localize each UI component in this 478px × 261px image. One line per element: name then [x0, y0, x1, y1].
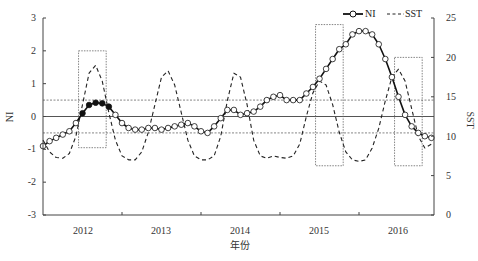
ni-data-point-filled: [99, 101, 105, 107]
ni-data-point: [376, 41, 382, 47]
ni-data-point: [205, 130, 211, 136]
ni-data-point: [238, 112, 244, 118]
ni-data-point: [310, 84, 316, 90]
ni-data-point: [126, 125, 132, 131]
legend-label-sst: SST: [405, 8, 422, 19]
ni-legend-marker-icon: [350, 11, 356, 17]
bottom-tick-label: 2014: [230, 225, 250, 236]
ni-data-point: [165, 125, 171, 131]
ni-data-point: [146, 125, 152, 131]
ni-series-line: [43, 31, 431, 146]
ni-data-point-filled: [106, 104, 112, 110]
ni-data-point: [297, 97, 303, 103]
left-axis-tick-labels: 3 2 1 0 -1 -2 -3: [28, 12, 36, 220]
left-tick-label: 3: [31, 12, 36, 23]
right-tick-label: 25: [446, 12, 456, 23]
ni-data-point: [178, 122, 184, 128]
ni-data-point: [323, 66, 329, 72]
ni-data-point: [244, 110, 250, 116]
ni-data-point: [409, 124, 415, 130]
ni-data-point: [422, 133, 428, 139]
left-tick-label: 0: [31, 111, 36, 122]
left-tick-label: -3: [28, 209, 36, 220]
ni-data-point: [350, 32, 356, 38]
ni-data-point: [389, 74, 395, 80]
bottom-axis-title: 年份: [230, 239, 250, 251]
ni-data-point: [192, 124, 198, 130]
ni-data-point: [73, 120, 79, 126]
plot-area: [40, 25, 434, 166]
ni-data-point: [336, 46, 342, 52]
left-tick-label: -2: [28, 176, 36, 187]
bottom-tick-label: 2016: [388, 225, 408, 236]
ni-data-point: [185, 120, 191, 126]
ni-data-point: [231, 107, 237, 113]
ni-data-point: [251, 109, 257, 115]
ni-data-point: [132, 127, 138, 133]
ni-data-point: [211, 124, 217, 130]
ni-data-point: [369, 32, 375, 38]
ni-data-point: [225, 107, 231, 113]
ni-data-point: [363, 28, 369, 34]
bottom-tick-label: 2013: [151, 225, 171, 236]
ni-data-point: [330, 56, 336, 62]
ni-data-point: [383, 56, 389, 62]
ni-data-point: [113, 112, 119, 118]
right-axis-title: SST: [465, 111, 476, 128]
ni-data-point-filled: [80, 110, 86, 116]
ni-data-point: [402, 112, 408, 118]
ni-data-point: [290, 97, 296, 103]
ni-data-point: [284, 97, 290, 103]
right-axis-tick-labels: 25 20 15 10 5 0: [446, 12, 456, 220]
ni-data-point: [304, 91, 310, 97]
right-tick-label: 15: [446, 91, 456, 102]
left-axis-title: NI: [4, 112, 15, 123]
right-tick-label: 5: [446, 170, 451, 181]
ni-data-point: [218, 115, 224, 121]
bottom-tick-label: 2015: [309, 225, 329, 236]
ni-data-point: [356, 28, 362, 34]
ni-data-point: [53, 135, 59, 141]
right-tick-label: 20: [446, 52, 456, 63]
legend-label-ni: NI: [365, 8, 376, 19]
left-tick-label: -1: [28, 143, 36, 154]
right-tick-label: 10: [446, 131, 456, 142]
ni-data-point: [257, 104, 263, 110]
bottom-tick-label: 2012: [73, 225, 93, 236]
ni-data-point: [396, 94, 402, 100]
highlight-box: [316, 25, 344, 166]
ni-data-point: [271, 94, 277, 100]
ni-data-point: [198, 128, 204, 134]
ni-data-point: [47, 138, 53, 144]
legend-item-sst: SST: [387, 8, 422, 19]
legend: NI SST: [343, 8, 422, 19]
right-tick-label: 0: [446, 209, 451, 220]
ni-data-point: [67, 128, 73, 134]
ni-data-point: [415, 130, 421, 136]
ni-data-point: [277, 92, 283, 98]
ni-sst-chart: 3 2 1 0 -1 -2 -3 NI 25 20 15 10 5 0 SST …: [0, 0, 478, 261]
ni-data-point: [119, 120, 125, 126]
ni-data-point: [172, 124, 178, 130]
ni-data-point: [343, 41, 349, 47]
ni-data-point: [264, 97, 270, 103]
left-tick-label: 2: [31, 45, 36, 56]
highlight-box: [395, 57, 423, 165]
ni-data-point: [317, 76, 323, 82]
legend-item-ni: NI: [343, 8, 376, 19]
ni-data-point: [152, 125, 158, 131]
left-tick-label: 1: [31, 78, 36, 89]
ni-data-point: [139, 127, 145, 133]
ni-data-point: [60, 132, 66, 138]
bottom-axis-tick-labels: 2012 2013 2014 2015 2016: [73, 225, 408, 236]
ni-data-point-filled: [86, 102, 92, 108]
ni-data-point-filled: [93, 100, 99, 106]
ni-data-point: [159, 127, 165, 133]
